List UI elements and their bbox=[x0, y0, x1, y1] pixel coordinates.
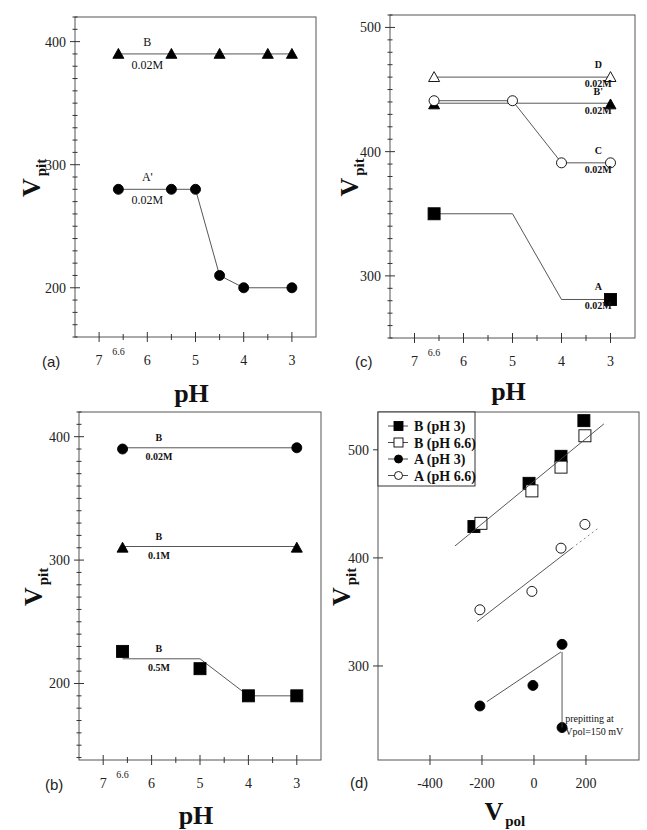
panel-label: (d) bbox=[350, 774, 368, 791]
series-annotation-concentration: 0.02M bbox=[131, 58, 163, 72]
data-point bbox=[113, 184, 123, 194]
plot-frame bbox=[79, 412, 321, 760]
y-tick-label: 400 bbox=[348, 551, 369, 566]
data-point bbox=[556, 543, 566, 553]
x-tick-label: -400 bbox=[417, 776, 443, 791]
data-point bbox=[287, 283, 297, 293]
chart-panel-d: 300400500-400-2000200(d)VpitVpolprepitti… bbox=[327, 412, 639, 829]
legend-marker bbox=[395, 472, 403, 480]
x-tick-label: 7 bbox=[100, 776, 107, 791]
x-tick-label: 0 bbox=[530, 776, 537, 791]
data-point bbox=[166, 184, 176, 194]
series-a-ph-6-6- bbox=[475, 519, 590, 614]
y-tick-label: 300 bbox=[360, 269, 381, 284]
fit-line bbox=[487, 652, 561, 702]
series-annotation-concentration: 0.02M bbox=[585, 105, 613, 116]
series-annotation: A bbox=[595, 281, 603, 292]
series-annotation: D bbox=[595, 59, 602, 70]
data-point bbox=[117, 542, 128, 552]
legend-label: A (pH 3) bbox=[414, 452, 466, 468]
legend-marker bbox=[394, 422, 403, 431]
data-point bbox=[242, 690, 254, 702]
x-tick-label: 200 bbox=[575, 776, 596, 791]
series-a-ph-3- bbox=[475, 639, 567, 732]
y-axis-title: Vpit bbox=[327, 568, 359, 606]
x-tick-label: 4 bbox=[558, 354, 565, 369]
x-tick-label: 3 bbox=[607, 354, 614, 369]
y-axis-title: Vpit bbox=[17, 159, 49, 197]
data-point bbox=[578, 415, 590, 427]
legend-label: A (pH 6.6) bbox=[414, 469, 476, 485]
legend-label: B (pH 6.6) bbox=[414, 436, 476, 452]
series-annotation: B bbox=[143, 35, 151, 49]
x-tick-label: 4 bbox=[240, 353, 247, 368]
x-tick-label: 5 bbox=[192, 353, 199, 368]
x-tick-label: 3 bbox=[293, 776, 300, 791]
series-annotation: B bbox=[156, 531, 163, 542]
x-axis-title: Vpol bbox=[485, 797, 526, 829]
data-point bbox=[166, 48, 177, 58]
annotation-text: Vpol=150 mV bbox=[565, 726, 624, 737]
series-annotation-concentration: 0.02M bbox=[145, 451, 173, 462]
x-tick-label: -200 bbox=[469, 776, 495, 791]
x-tick-label: 6 bbox=[460, 354, 467, 369]
data-point bbox=[475, 701, 485, 711]
x-tick-label-extra: 6.6 bbox=[428, 347, 441, 358]
series-d: D0.02M bbox=[429, 59, 616, 89]
y-tick-label: 300 bbox=[49, 553, 70, 568]
data-point bbox=[557, 158, 567, 168]
series-annotation: A' bbox=[142, 170, 153, 184]
series-annotation-concentration: 0.02M bbox=[585, 300, 613, 311]
y-tick-label: 400 bbox=[49, 430, 70, 445]
data-point bbox=[580, 519, 590, 529]
x-tick-label: 6 bbox=[148, 776, 155, 791]
y-axis-title: Vpit bbox=[19, 568, 51, 606]
chart-panel-b: 200300400765436.6(b)VpitpHB0.02MB0.1MB0.… bbox=[19, 412, 321, 830]
x-tick-label: 5 bbox=[509, 354, 516, 369]
y-tick-label: 500 bbox=[360, 20, 381, 35]
data-point bbox=[191, 184, 201, 194]
panel-label: (c) bbox=[355, 353, 373, 370]
legend-marker bbox=[394, 438, 403, 447]
x-tick-label-extra: 6.6 bbox=[116, 769, 129, 780]
series-annotation-concentration: 0.02M bbox=[585, 164, 613, 175]
legend-label: B (pH 3) bbox=[414, 419, 466, 435]
data-point bbox=[117, 645, 129, 657]
data-point bbox=[429, 96, 439, 106]
y-tick-label: 500 bbox=[348, 443, 369, 458]
x-tick-label: 7 bbox=[96, 353, 103, 368]
series-line bbox=[434, 214, 610, 300]
y-axis-title: Vpit bbox=[335, 158, 367, 196]
y-tick-label: 200 bbox=[49, 676, 70, 691]
series-annotation: B bbox=[156, 432, 163, 443]
y-tick-label: 300 bbox=[348, 659, 369, 674]
series-annotation: B' bbox=[594, 86, 604, 97]
data-point bbox=[508, 96, 518, 106]
x-axis-title: pH bbox=[179, 801, 214, 830]
x-tick-label: 6 bbox=[144, 353, 151, 368]
data-point bbox=[555, 450, 567, 462]
series-annotation: B bbox=[156, 643, 163, 654]
chart-panel-a: 200300400765436.6(a)VpitpHB0.02MA'0.02M bbox=[17, 17, 316, 408]
y-tick-label: 400 bbox=[360, 145, 381, 160]
data-point bbox=[527, 586, 537, 596]
data-point bbox=[286, 48, 297, 58]
fit-line bbox=[572, 528, 599, 549]
y-tick-label: 400 bbox=[45, 35, 66, 50]
series-annotation-concentration: 0.02M bbox=[131, 193, 163, 207]
data-point bbox=[429, 72, 440, 82]
x-tick-label: 7 bbox=[411, 354, 418, 369]
data-point bbox=[194, 663, 206, 675]
figure: 200300400765436.6(a)VpitpHB0.02MA'0.02M3… bbox=[0, 0, 647, 830]
data-point bbox=[291, 690, 303, 702]
series-b: B0.02M bbox=[113, 35, 298, 72]
series-a-: A'0.02M bbox=[113, 170, 297, 292]
annotation-text: prepitting at bbox=[565, 713, 614, 724]
series-a: A0.02M bbox=[428, 208, 616, 312]
series-b-0-02m: B0.02M bbox=[118, 432, 302, 462]
y-tick-label: 200 bbox=[45, 281, 66, 296]
data-point bbox=[262, 48, 273, 58]
series-annotation-concentration: 0.5M bbox=[148, 662, 171, 673]
x-tick-label: 4 bbox=[245, 776, 252, 791]
x-axis-title: pH bbox=[174, 379, 209, 408]
